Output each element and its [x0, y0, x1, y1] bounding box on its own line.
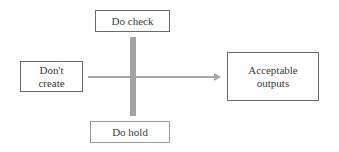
- node-dont-create: Don't create: [20, 61, 83, 92]
- node-do-check: Do check: [95, 10, 170, 32]
- node-do-hold-label: Do hold: [112, 126, 148, 139]
- arrow-head-icon: [214, 73, 221, 81]
- node-dont-create-line2: create: [38, 77, 64, 90]
- node-do-check-label: Do check: [112, 15, 154, 28]
- barrier-bar: [130, 37, 136, 116]
- node-dont-create-line1: Don't: [38, 64, 64, 77]
- node-acceptable-outputs: Acceptable outputs: [227, 52, 319, 101]
- node-acceptable-outputs-line1: Acceptable: [248, 64, 297, 77]
- node-do-hold: Do hold: [90, 121, 170, 143]
- node-acceptable-outputs-line2: outputs: [248, 77, 297, 90]
